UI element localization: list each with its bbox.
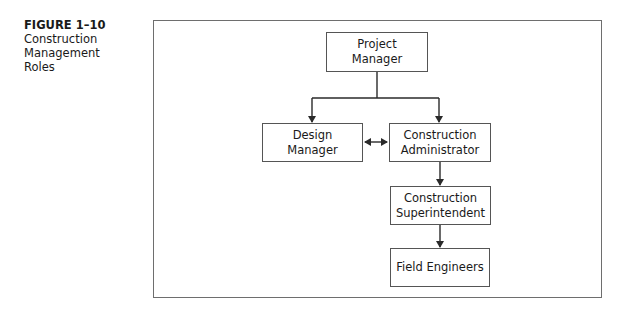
node-construction-administrator: Construction Administrator	[389, 123, 491, 162]
node-construction-superintendent: Construction Superintendent	[390, 186, 491, 225]
node-design-manager: Design Manager	[262, 123, 363, 162]
node-label-line-1: Construction	[403, 128, 476, 143]
node-label: Design Manager	[267, 128, 358, 158]
node-label: Field Engineers	[396, 260, 483, 275]
node-label-line-2: Administrator	[401, 143, 479, 158]
node-project-manager: Project Manager	[326, 32, 428, 72]
node-label-line-1: Construction	[404, 191, 477, 206]
node-label: Project Manager	[331, 37, 423, 67]
node-field-engineers: Field Engineers	[390, 248, 490, 287]
node-label-line-2: Superintendent	[396, 206, 485, 221]
